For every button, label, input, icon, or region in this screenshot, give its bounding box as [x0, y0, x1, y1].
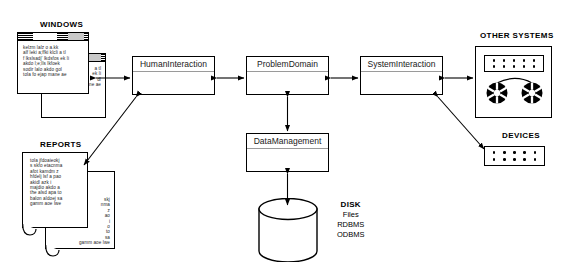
human-interaction-label: HumanInteraction — [133, 57, 214, 72]
dot-row — [485, 59, 543, 62]
disk-line-odbms: ODBMS — [337, 230, 365, 240]
report-front-body: tola jfdoaieokj s skfo etacnma afot kamd… — [23, 153, 87, 227]
caption-reports: REPORTS — [40, 140, 81, 149]
system-interaction-label: SystemInteraction — [361, 57, 442, 72]
report-front-text: tola jfdoaieokj s skfo etacnma afot kamd… — [30, 158, 83, 207]
disk-line-rdbms: RDBMS — [337, 220, 365, 230]
caption-devices: DEVICES — [502, 131, 540, 140]
window-front[interactable]: kelzm lalz o a.kk alf leki a;ffki klcli … — [17, 32, 89, 94]
caption-other-systems: OTHER SYSTEMS — [480, 31, 554, 40]
component-system-interaction[interactable]: SystemInteraction — [360, 56, 443, 95]
window-body-front: kelzm lalz o a.kk alf leki a;ffki klcli … — [18, 41, 88, 93]
architecture-diagram: WINDOWS REPORTS OTHER SYSTEMS DEVICES a … — [0, 0, 566, 270]
problem-domain-label: ProblemDomain — [247, 57, 328, 72]
dot-row — [485, 158, 544, 161]
other-systems-unit[interactable] — [475, 46, 552, 118]
data-management-body — [247, 149, 328, 171]
disk-label-group: DISK Files RDBMS ODBMS — [337, 200, 365, 240]
page-curl-icon-front — [22, 224, 39, 236]
data-management-label: DataManagement — [247, 134, 328, 149]
component-data-management[interactable]: DataManagement — [246, 133, 329, 172]
report-front[interactable]: tola jfdoaieokj s skfo etacnma afot kamd… — [22, 152, 88, 228]
system-interaction-body — [361, 72, 442, 94]
human-interaction-body — [133, 72, 214, 94]
window-titlebar-front — [18, 33, 88, 41]
windows-group: a tl ek li dl tola fo ejap mane ae kelzm… — [17, 32, 107, 120]
dot-row — [485, 65, 543, 68]
page-curl-icon-back — [45, 245, 62, 257]
dot-row — [485, 151, 544, 154]
disk-line-files: Files — [337, 210, 365, 220]
tape-reel-icon — [481, 75, 548, 109]
problem-domain-body — [247, 72, 328, 94]
disk-heading: DISK — [337, 200, 365, 210]
devices-dot-grid-icon[interactable] — [484, 146, 545, 166]
reports-group: skj nma z ao i o to sa gamm aoe lwe tola… — [22, 152, 117, 264]
other-systems-dot-grid-icon — [484, 55, 544, 72]
window-front-text: kelzm lalz o a.kk alf leki a;ffki klcli … — [23, 45, 84, 77]
component-problem-domain[interactable]: ProblemDomain — [246, 56, 329, 95]
component-human-interaction[interactable]: HumanInteraction — [132, 56, 215, 95]
disk-cylinder-icon — [258, 198, 318, 262]
caption-windows: WINDOWS — [40, 20, 83, 29]
